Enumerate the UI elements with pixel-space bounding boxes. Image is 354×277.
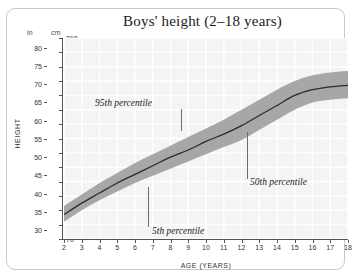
x-tickmark-7 (153, 240, 154, 243)
y-tick-in-50: 50 (24, 154, 42, 161)
x-tick-10: 10 (202, 244, 210, 251)
y-tickmark-in-50 (44, 157, 47, 158)
y-tickmark-in-45 (44, 175, 47, 176)
y-tickmark-in-55 (44, 139, 47, 140)
y-axis-spine (62, 38, 63, 239)
x-tickmark-12 (242, 240, 243, 243)
y-tick-in-35: 35 (24, 208, 42, 215)
x-tickmark-10 (206, 240, 207, 243)
y-tickmark-cm-80 (59, 225, 62, 226)
leader-line-95th (181, 109, 182, 131)
x-tickmark-8 (171, 240, 172, 243)
y-tickmark-in-60 (44, 121, 47, 122)
x-tickmark-2 (64, 240, 65, 243)
centimeters-unit-header: cm (51, 29, 61, 36)
x-tickmark-9 (188, 240, 189, 243)
x-tick-2: 2 (62, 244, 66, 251)
y-tickmark-cm-140 (59, 139, 62, 140)
x-tickmark-16 (313, 240, 314, 243)
y-tickmark-in-30 (44, 230, 47, 231)
x-tickmark-3 (82, 240, 83, 243)
y-tickmark-in-75 (44, 66, 47, 67)
y-tickmark-in-35 (44, 212, 47, 213)
x-tickmark-13 (259, 240, 260, 243)
x-tickmark-17 (330, 240, 331, 243)
y-tickmark-cm-210 (59, 38, 62, 39)
x-tick-18: 18 (344, 244, 352, 251)
y-tick-in-75: 75 (24, 62, 42, 69)
y-tickmark-cm-190 (59, 67, 62, 68)
y-tickmark-cm-160 (59, 110, 62, 111)
x-tick-4: 4 (98, 244, 102, 251)
x-tick-12: 12 (238, 244, 246, 251)
growth-curve-svg (64, 38, 348, 239)
y-tick-in-65: 65 (24, 99, 42, 106)
y-tickmark-cm-110 (59, 182, 62, 183)
y-tickmark-cm-180 (59, 81, 62, 82)
y-tick-in-80: 80 (24, 44, 42, 51)
y-tickmark-in-65 (44, 102, 47, 103)
x-tick-11: 11 (220, 244, 227, 251)
plot-area (64, 38, 348, 239)
x-tick-13: 13 (255, 244, 263, 251)
x-tick-6: 6 (133, 244, 137, 251)
x-tickmark-14 (277, 240, 278, 243)
x-tick-14: 14 (273, 244, 281, 251)
y-tickmark-cm-100 (59, 196, 62, 197)
chart-page: Boys' height (2–18 years) in cm HEIGHT A… (0, 0, 354, 277)
y-tick-in-70: 70 (24, 81, 42, 88)
x-tickmark-11 (224, 240, 225, 243)
y-tickmark-in-70 (44, 84, 47, 85)
y-tickmark-cm-170 (59, 95, 62, 96)
x-tickmark-18 (348, 240, 349, 243)
leader-line-5th (148, 187, 149, 227)
y-tick-in-45: 45 (24, 172, 42, 179)
x-tickmark-15 (295, 240, 296, 243)
x-tick-9: 9 (186, 244, 190, 251)
annotation-95th-percentile: 95th percentile (95, 98, 152, 108)
x-tick-3: 3 (80, 244, 84, 251)
x-tick-8: 8 (169, 244, 173, 251)
y-axis-label: HEIGHT (14, 104, 21, 164)
y-tickmark-cm-70 (59, 239, 62, 240)
y-tickmark-cm-130 (59, 153, 62, 154)
leader-line-50th (247, 132, 248, 179)
chart-title: Boys' height (2–18 years) (60, 13, 345, 30)
y-tickmark-in-80 (44, 48, 47, 49)
x-tickmark-4 (100, 240, 101, 243)
x-tick-5: 5 (115, 244, 119, 251)
y-tick-in-55: 55 (24, 135, 42, 142)
y-tickmark-cm-200 (59, 52, 62, 53)
y-tick-in-30: 30 (24, 227, 42, 234)
x-tickmark-6 (135, 240, 136, 243)
x-tick-16: 16 (309, 244, 317, 251)
annotation-5th-percentile: 5th percentile (152, 226, 204, 236)
x-axis-label: AGE (YEARS) (64, 262, 348, 269)
y-tickmark-in-40 (44, 194, 47, 195)
y-tickmark-cm-120 (59, 167, 62, 168)
y-tick-in-60: 60 (24, 117, 42, 124)
annotation-50th-percentile: 50th percentile (250, 177, 307, 187)
y-tick-in-40: 40 (24, 190, 42, 197)
x-tick-7: 7 (151, 244, 155, 251)
y-tickmark-cm-150 (59, 124, 62, 125)
x-tickmark-5 (117, 240, 118, 243)
y-tickmark-cm-90 (59, 210, 62, 211)
x-tick-17: 17 (326, 244, 334, 251)
x-axis-spine (62, 239, 348, 240)
x-tick-15: 15 (291, 244, 299, 251)
inches-unit-header: in (27, 29, 33, 36)
